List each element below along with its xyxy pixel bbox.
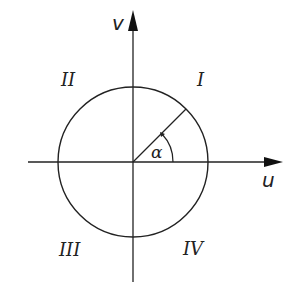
angle-alpha-label: α xyxy=(151,142,163,162)
quadrant-III-label: III xyxy=(58,239,81,260)
quadrant-II-label: II xyxy=(60,69,76,90)
angle-arc xyxy=(162,134,173,162)
unit-circle-diagram: v u I II III IV α xyxy=(0,0,300,286)
quadrant-I-label: I xyxy=(196,69,205,90)
quadrant-IV-label: IV xyxy=(182,238,205,259)
u-axis-arrow-icon xyxy=(264,157,283,167)
v-axis-label: v xyxy=(112,11,125,35)
u-axis-label: u xyxy=(262,168,275,192)
v-axis-arrow-icon xyxy=(128,10,138,31)
